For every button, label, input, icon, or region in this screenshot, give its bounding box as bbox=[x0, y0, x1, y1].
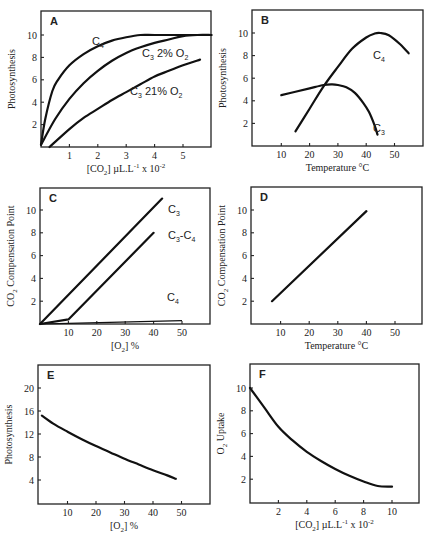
y-tick-label: 2 bbox=[32, 119, 37, 130]
panel-b: 1020304050246810BTemperature °CPhotosynt… bbox=[217, 10, 423, 173]
series-label: C4 bbox=[167, 291, 179, 305]
panel-letter: D bbox=[260, 191, 268, 203]
panel-letter: B bbox=[261, 14, 269, 26]
series-label: C3 2% O2 bbox=[142, 47, 188, 61]
series-label: C4 bbox=[373, 49, 385, 63]
x-tick-label: 40 bbox=[361, 149, 371, 160]
y-tick-label: 20 bbox=[24, 383, 34, 394]
series-label: C3 bbox=[168, 203, 180, 217]
y-tick-label: 4 bbox=[31, 273, 36, 284]
x-axis-label: [CO2] µL.L-1 x 10-2 bbox=[295, 518, 374, 533]
x-tick-label: 20 bbox=[91, 507, 101, 518]
y-tick-label: 10 bbox=[26, 205, 36, 216]
panel-c: 1020304050246810C[O2] %CO2 Compensation … bbox=[5, 188, 210, 354]
x-tick-label: 2 bbox=[276, 506, 281, 517]
y-axis-label: CO2 Compensation Point bbox=[216, 205, 230, 307]
x-tick-label: 20 bbox=[92, 327, 102, 338]
plot-frame bbox=[252, 10, 423, 146]
y-tick-label: 4 bbox=[243, 95, 248, 106]
y-tick-label: 12 bbox=[24, 429, 34, 440]
series-label: C3-C4 bbox=[168, 229, 195, 243]
y-tick-label: 8 bbox=[242, 227, 247, 238]
y-tick-label: 4 bbox=[242, 273, 247, 284]
x-tick-label: 50 bbox=[390, 149, 400, 160]
y-axis-label: CO2 Compensation Point bbox=[5, 205, 19, 307]
y-tick-label: 8 bbox=[241, 405, 246, 416]
x-tick-label: 8 bbox=[361, 506, 366, 517]
y-tick-label: 6 bbox=[32, 74, 37, 85]
x-tick-label: 30 bbox=[120, 327, 130, 338]
y-axis-label: O2 Uptake bbox=[215, 412, 229, 455]
y-tick-label: 6 bbox=[243, 73, 248, 84]
y-tick-label: 10 bbox=[236, 383, 246, 394]
x-axis-label: Temperature °C bbox=[305, 340, 369, 351]
series-line-c3 bbox=[40, 199, 162, 324]
panel-letter: C bbox=[49, 192, 57, 204]
series-line-c4 bbox=[295, 33, 408, 131]
y-tick-label: 2 bbox=[241, 474, 246, 485]
x-tick-label: 30 bbox=[120, 507, 130, 518]
x-tick-label: 20 bbox=[305, 149, 315, 160]
x-tick-label: 10 bbox=[276, 327, 286, 338]
panel-f: 246810246810F[CO2] µL.L-1 x 10-2O2 Uptak… bbox=[215, 364, 419, 533]
y-tick-label: 6 bbox=[31, 250, 36, 261]
panel-e: 102030405048121620E[O2] %Photosynthesis bbox=[3, 365, 210, 534]
x-tick-label: 40 bbox=[149, 327, 159, 338]
y-tick-label: 6 bbox=[241, 428, 246, 439]
panel-letter: E bbox=[47, 369, 54, 381]
x-tick-label: 10 bbox=[63, 327, 73, 338]
y-tick-label: 8 bbox=[243, 50, 248, 61]
x-tick-label: 4 bbox=[152, 150, 157, 161]
plot-frame bbox=[250, 364, 419, 503]
y-tick-label: 4 bbox=[29, 475, 34, 486]
y-tick-label: 6 bbox=[242, 250, 247, 261]
y-tick-label: 8 bbox=[29, 452, 34, 463]
figure-six-panel: 12345246810A[CO2] µL.L-1 x 10-2Photosynt… bbox=[0, 0, 430, 542]
x-tick-label: 1 bbox=[67, 150, 72, 161]
x-tick-label: 50 bbox=[390, 327, 400, 338]
plot-frame bbox=[40, 188, 210, 324]
x-tick-label: 10 bbox=[276, 149, 286, 160]
series-line-c4 bbox=[41, 35, 211, 145]
y-tick-label: 10 bbox=[237, 205, 247, 216]
x-tick-label: 5 bbox=[181, 150, 186, 161]
x-tick-label: 50 bbox=[177, 327, 187, 338]
y-tick-label: 10 bbox=[238, 28, 248, 39]
y-tick-label: 4 bbox=[32, 97, 37, 108]
x-axis-label: [O2] % bbox=[110, 520, 138, 534]
x-tick-label: 10 bbox=[63, 507, 73, 518]
y-tick-label: 2 bbox=[242, 296, 247, 307]
series-label: C4 bbox=[92, 35, 104, 49]
series-line-c3 bbox=[281, 84, 377, 134]
x-axis-label: [O2] % bbox=[111, 340, 139, 354]
plot-frame bbox=[41, 11, 211, 147]
y-axis-label: Photosynthesis bbox=[3, 404, 14, 464]
x-tick-label: 20 bbox=[304, 327, 314, 338]
x-axis-label: Temperature °C bbox=[306, 162, 370, 173]
y-tick-label: 2 bbox=[31, 296, 36, 307]
plot-frame bbox=[251, 187, 422, 324]
x-tick-label: 10 bbox=[387, 506, 397, 517]
series-label: C3 21% O2 bbox=[130, 85, 183, 99]
x-tick-label: 40 bbox=[361, 327, 371, 338]
y-axis-label: Photosynthesis bbox=[6, 49, 17, 109]
panel-d: 1020304050246810DTemperature °CCO2 Compe… bbox=[216, 187, 422, 351]
panel-letter: A bbox=[50, 15, 58, 27]
series-label: C3 bbox=[373, 122, 385, 136]
x-tick-label: 6 bbox=[333, 506, 338, 517]
panel-a: 12345246810A[CO2] µL.L-1 x 10-2Photosynt… bbox=[6, 11, 211, 177]
series-line-c3-21-o2 bbox=[50, 60, 201, 147]
y-tick-label: 4 bbox=[241, 451, 246, 462]
y-tick-label: 8 bbox=[32, 52, 37, 63]
series-line-line bbox=[272, 211, 366, 301]
series-line-c3-c4 bbox=[40, 233, 154, 324]
y-tick-label: 8 bbox=[31, 227, 36, 238]
series-line-line bbox=[250, 388, 392, 487]
y-tick-label: 10 bbox=[27, 30, 37, 41]
series-line-line bbox=[42, 416, 176, 479]
panel-letter: F bbox=[259, 368, 266, 380]
y-tick-label: 2 bbox=[243, 118, 248, 129]
x-tick-label: 3 bbox=[124, 150, 129, 161]
plot-frame bbox=[38, 365, 210, 504]
y-tick-label: 16 bbox=[24, 406, 34, 417]
